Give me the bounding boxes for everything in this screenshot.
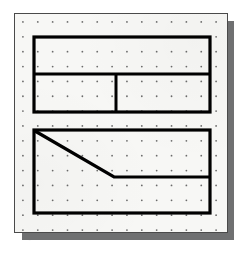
figure-shapes (15, 14, 228, 233)
geoboard-panel (14, 13, 228, 233)
figure-scene (0, 0, 247, 260)
figures-layer (15, 14, 227, 232)
lower-rectangle (34, 130, 210, 213)
lower-diagonal-path (35, 131, 210, 177)
